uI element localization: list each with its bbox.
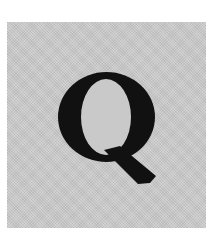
letter-q-glyph bbox=[0, 0, 213, 228]
